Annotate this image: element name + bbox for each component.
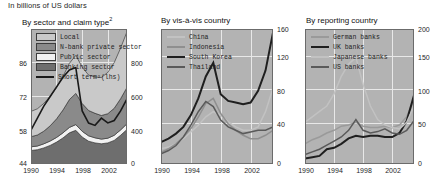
legend-label: UK banks [333,44,364,51]
legend-line-us-banks [311,66,329,68]
legend: German banks UK banks Japanese banks US … [311,32,388,72]
legend-item: Japanese banks [311,52,388,62]
panel-title: By sector and claim type2 [22,16,112,27]
legend-label: Public sector [60,54,111,61]
x-axis-tick: 2002 [378,167,408,174]
y-axis-left-tick: 44 [2,160,27,167]
legend-item: Public sector [36,52,142,62]
legend-label: Thailand [189,64,220,71]
y-axis-right-tick: 120 [277,54,289,61]
legend-item: N-bank private sector [36,42,142,52]
legend-item: Banking sector [36,62,142,72]
legend-label: German banks [333,34,380,41]
y-axis-right-tick: 200 [418,26,430,33]
legend: China Indonesia South Korea Thailand [167,32,232,72]
x-axis-tick: 1990 [291,167,321,174]
legend-label: N-bank private sector [60,44,142,51]
legend-item: Indonesia [167,42,232,52]
x-axis-tick: 1998 [207,167,237,174]
y-axis-left-tick: 58 [2,128,27,135]
y-axis-left-tick: 86 [2,60,27,67]
legend-label: Japanese banks [333,54,388,61]
figure-caption: In billions of US dollars [8,1,87,10]
legend-line-short-term [36,76,54,78]
legend-swatch-public-sector [36,53,56,61]
x-axis-tick: 1994 [320,167,350,174]
panel-title: By vis-à-vis country [161,16,230,25]
x-axis-tick: 1994 [177,167,207,174]
y-axis-right-tick: 150 [418,54,430,61]
y-axis-right-tick: 0 [418,160,422,167]
legend-item: Short term²(lhs) [36,72,142,82]
x-axis-tick: 2002 [94,167,124,174]
legend-line-german-banks [311,36,329,38]
y-axis-right-tick: 50 [418,121,426,128]
legend-line-uk-banks [311,46,329,48]
legend-label: Indonesia [189,44,224,51]
y-axis-right-tick: 0 [131,160,135,167]
y-axis-right-tick: 0 [277,160,281,167]
line-china [161,88,273,149]
legend-line-thailand [167,66,185,68]
panel-by-sector-and-claim-type: By sector and claim type2 [0,14,148,194]
legend-item: Local [36,32,142,42]
legend-label: Local [60,34,80,41]
panel-title: By reporting country [306,16,378,25]
y-axis-right-tick: 600 [131,94,143,101]
panel-title-superscript: 2 [109,16,112,22]
legend-label: China [189,34,209,41]
panel-by-vis-a-vis-country: By vis-à-vis country China Indonesia Sou [147,14,293,194]
legend-item: Thailand [167,62,232,72]
legend-item: UK banks [311,42,388,52]
legend-swatch-banking-sector [36,63,56,71]
x-axis-tick: 2002 [237,167,267,174]
panel-title-text: By sector and claim type [22,18,109,27]
legend-line-china [167,36,185,38]
legend-item: German banks [311,32,388,42]
y-axis-right-tick: 400 [131,128,143,135]
y-axis-left-tick: 72 [2,94,27,101]
x-axis-tick: 1998 [349,167,379,174]
x-axis-tick: 1990 [147,167,177,174]
figure-container: In billions of US dollars By sector and … [0,0,439,194]
y-axis-right-tick: 160 [277,26,289,33]
legend-item: US banks [311,62,388,72]
legend-line-south-korea [167,56,185,58]
legend-label: US banks [333,64,364,71]
legend-line-japanese-banks [311,56,329,58]
legend-item: South Korea [167,52,232,62]
y-axis-right-tick: 80 [277,88,285,95]
legend: Local N-bank private sector Public secto… [36,32,142,82]
legend-label: Banking sector [60,64,115,71]
legend-swatch-local [36,33,56,41]
legend-label: South Korea [189,54,232,61]
legend-item: China [167,32,232,42]
legend-line-indonesia [167,46,185,48]
y-axis-right-tick: 40 [277,121,285,128]
y-axis-right-tick: 100 [418,88,430,95]
panel-by-reporting-country: By reporting country German banks UK ban… [292,14,439,194]
legend-label: Short term²(lhs) [58,74,120,81]
line-uk-banks [305,95,414,158]
legend-swatch-nonbank-private-sector [36,43,56,51]
